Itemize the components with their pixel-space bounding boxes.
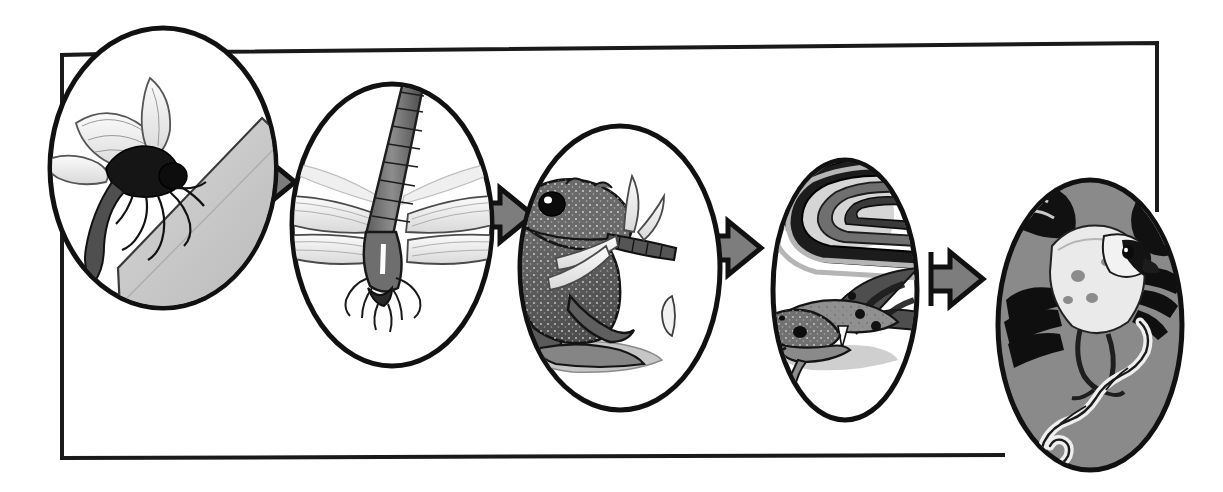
arrow-snake-to-bird [931, 252, 983, 306]
node-frog[interactable] [512, 126, 720, 410]
food-chain-svg [0, 0, 1223, 492]
node-dragonfly[interactable] [276, 71, 508, 366]
node-mosquito[interactable] [46, 28, 292, 316]
diagram-canvas: Food chain cycle mosquito dragonfly frog… [0, 0, 1223, 492]
node-snake[interactable] [762, 151, 918, 420]
node-bird-of-prey[interactable] [998, 180, 1183, 470]
